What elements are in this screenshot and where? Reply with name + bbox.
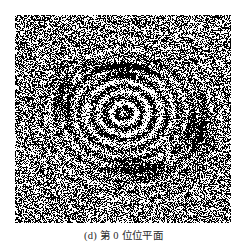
figure-caption: (d) 第 0 位位平面: [0, 229, 247, 242]
bit-plane-image-panel: [15, 15, 231, 223]
caption-text: 第 0 位位平面: [100, 230, 163, 241]
figure-container: (d) 第 0 位位平面: [0, 0, 247, 245]
bit-plane-image: [15, 15, 231, 223]
caption-label: (d): [84, 230, 97, 241]
